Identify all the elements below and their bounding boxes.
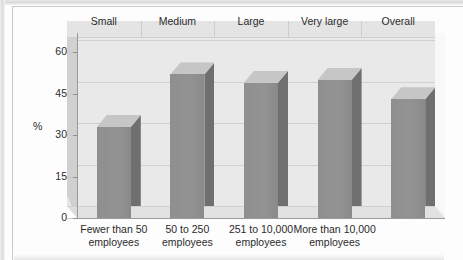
bar-side-face: [425, 87, 435, 206]
bar-side-face: [204, 62, 214, 206]
y-tick-mark-15: [73, 177, 77, 178]
bar-side-face: [352, 68, 362, 206]
bar-front-face: [244, 83, 278, 218]
x-category-label-4: More than 10,000employees: [280, 223, 390, 249]
y-tick-mark-45: [73, 94, 77, 95]
bar-chart-figure: SmallMediumLargeVery largeOverall 015304…: [0, 0, 463, 260]
x-axis-line: [77, 218, 445, 219]
group-header-small: Small: [67, 14, 141, 28]
bar-1: [97, 115, 131, 218]
y-tick-mark-60: [73, 52, 77, 53]
y-tick-label-0: 0: [41, 212, 67, 223]
y-tick-mark-0: [73, 218, 77, 219]
bar-side-face: [131, 115, 141, 206]
bar-front-face: [97, 127, 131, 218]
bar-5: [391, 87, 425, 218]
group-header-very-large: Very large: [288, 14, 362, 28]
y-axis-label: %: [33, 120, 42, 132]
x-category-label-line1: More than 10,000: [280, 223, 390, 236]
y-tick-label-45: 45: [41, 88, 67, 99]
y-tick-label-15: 15: [41, 171, 67, 182]
bar-4: [318, 68, 352, 218]
bar-front-face: [318, 80, 352, 218]
bar-side-face: [278, 71, 288, 206]
bar-2: [170, 62, 204, 218]
group-header-large: Large: [214, 14, 288, 28]
x-category-label-line2: employees: [280, 236, 390, 249]
gridline-60: [67, 40, 435, 41]
bar-front-face: [170, 74, 204, 218]
y-axis-line: [77, 33, 78, 219]
group-header-overall: Overall: [361, 14, 435, 28]
group-header-medium: Medium: [141, 14, 215, 28]
bar-3: [244, 71, 278, 218]
bar-front-face: [391, 99, 425, 218]
y-tick-label-30: 30: [41, 129, 67, 140]
y-tick-label-60: 60: [41, 46, 67, 57]
y-tick-mark-30: [73, 135, 77, 136]
